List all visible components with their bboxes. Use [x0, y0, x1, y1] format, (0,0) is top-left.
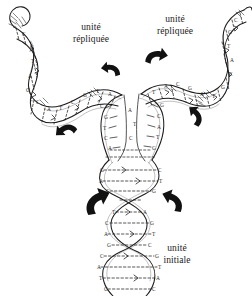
svg-text:G: G	[83, 92, 87, 98]
svg-text:A: A	[157, 124, 161, 130]
svg-text:G: G	[26, 87, 30, 93]
svg-text:A: A	[28, 73, 32, 79]
svg-text:G: G	[150, 220, 154, 226]
svg-text:G: G	[221, 84, 225, 90]
svg-text:C: C	[234, 17, 238, 23]
label-initial-line2: initiale	[148, 255, 206, 267]
svg-text:A: A	[200, 91, 204, 97]
svg-text:A: A	[108, 91, 112, 97]
svg-text:C: C	[104, 135, 108, 141]
svg-text:C: C	[229, 71, 233, 77]
svg-text:G: G	[104, 114, 108, 120]
svg-text:C: C	[100, 253, 104, 259]
svg-text:G: G	[30, 44, 34, 50]
svg-text:G: G	[160, 102, 164, 108]
svg-text:A: A	[156, 275, 160, 281]
dna-replication-illustration: G C A T C G T A C G A T G C C G A T T A …	[0, 0, 252, 296]
label-right-line1: unité	[142, 14, 208, 26]
figure-background	[0, 0, 252, 296]
svg-text:A: A	[108, 145, 112, 151]
svg-text:A: A	[230, 57, 234, 63]
svg-text:C: C	[22, 31, 26, 37]
label-left-replicated-unit: unité répliquée	[58, 22, 124, 45]
svg-text:C: C	[71, 99, 75, 105]
svg-text:A: A	[97, 264, 101, 270]
svg-text:C: C	[158, 167, 162, 173]
svg-text:C: C	[157, 113, 161, 119]
svg-text:C: C	[36, 99, 40, 105]
svg-text:G: G	[228, 29, 232, 35]
label-right-line2: répliquée	[142, 26, 208, 38]
svg-text:G: G	[188, 85, 192, 91]
svg-text:A: A	[99, 178, 103, 184]
svg-text:C: C	[105, 220, 109, 226]
label-left-line2: répliquée	[58, 34, 124, 46]
svg-text:A: A	[47, 106, 51, 112]
svg-text:G: G	[107, 242, 111, 248]
svg-text:G: G	[104, 286, 108, 292]
label-right-replicated-unit: unité répliquée	[142, 14, 208, 37]
svg-text:A: A	[128, 107, 132, 113]
svg-text:C: C	[129, 135, 133, 141]
svg-text:G: G	[152, 188, 156, 194]
svg-text:G: G	[100, 167, 104, 173]
svg-text:A: A	[143, 209, 147, 215]
svg-text:C: C	[176, 81, 180, 87]
svg-text:C: C	[152, 286, 156, 292]
svg-text:G: G	[152, 145, 156, 151]
label-left-line1: unité	[58, 22, 124, 34]
dna-replication-figure: G C A T C G T A C G A T G C C G A T T A …	[0, 0, 252, 296]
svg-text:A: A	[164, 83, 168, 89]
svg-text:A: A	[104, 231, 108, 237]
label-initial-line1: unité	[148, 243, 206, 255]
label-initial-unit: unité initiale	[148, 243, 206, 266]
